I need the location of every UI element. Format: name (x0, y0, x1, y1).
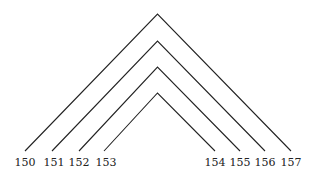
label-150: 150 (14, 156, 36, 169)
label-151: 151 (43, 156, 65, 169)
arc-152-155 (79, 67, 240, 151)
arc-151-156 (52, 41, 265, 151)
label-157: 157 (280, 156, 302, 169)
label-156: 156 (254, 156, 276, 169)
label-152: 152 (68, 156, 90, 169)
label-155: 155 (229, 156, 251, 169)
arc-153-154 (104, 93, 215, 151)
arc-150-157 (25, 14, 291, 151)
nested-arcs-diagram (0, 0, 316, 180)
label-153: 153 (95, 156, 117, 169)
label-154: 154 (204, 156, 226, 169)
